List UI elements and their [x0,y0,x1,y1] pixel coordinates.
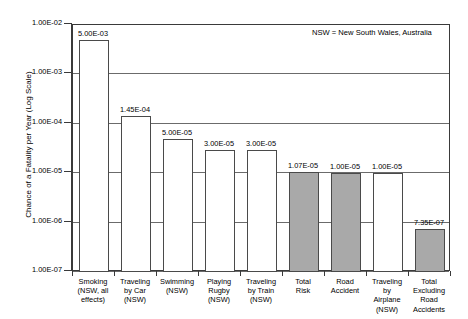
x-axis-category-label: Playing Rugby (NSW) [198,277,240,305]
y-axis-tick [64,171,72,172]
bar-value-label: 7.35E-07 [399,218,459,227]
x-axis-category-label: Total Risk [282,277,324,295]
gridline [73,73,449,74]
x-axis-category-label: Total Excluding Road Accidents [408,277,450,314]
y-axis-tick [64,122,72,123]
x-axis-tick [450,271,451,276]
bar-value-label: 5.00E-03 [63,29,123,38]
x-axis-tick [72,271,73,276]
x-axis-category-label: Traveling by Train (NSW) [240,277,282,305]
x-axis-tick [408,271,409,276]
bar-value-label: 1.45E-04 [105,105,165,114]
x-axis-tick [366,271,367,276]
x-axis-tick [114,271,115,276]
y-axis-tick [64,72,72,73]
bar [121,116,151,272]
chart-annotation: NSW = New South Wales, Australia [312,28,432,37]
y-axis-tick [64,23,72,24]
x-axis-category-label: Road Accident [324,277,366,295]
y-axis-tick-label: 1.00E-04 [0,118,62,126]
x-axis-category-label: Traveling by Airplane (NSW) [366,277,408,314]
bar [163,139,193,272]
bar [289,172,319,272]
bar [205,150,235,272]
y-axis-tick [64,270,72,271]
bar-value-label: 3.00E-05 [231,139,291,148]
bar-value-label: 1.00E-05 [357,162,417,171]
x-axis-tick [240,271,241,276]
y-axis-tick-label: 1.00E-07 [0,266,62,274]
y-axis-tick-label: 1.00E-02 [0,19,62,27]
x-axis-category-label: Swimming (NSW) [156,277,198,295]
y-axis-tick-label: 1.00E-06 [0,217,62,225]
x-axis-category-label: Smoking (NSW, all effects) [72,277,114,305]
x-axis-tick [198,271,199,276]
fatality-risk-bar-chart: Chance of a Fatality per Year (Log Scale… [0,0,468,319]
y-axis-tick [64,221,72,222]
bar [331,173,361,272]
bar-value-label: 5.00E-05 [147,128,207,137]
x-axis-category-label: Traveling by Car (NSW) [114,277,156,305]
x-axis-tick [282,271,283,276]
x-axis-tick [156,271,157,276]
y-axis-tick-label: 1.00E-03 [0,68,62,76]
bar [79,40,109,272]
y-axis-tick-label: 1.00E-05 [0,167,62,175]
x-axis-tick [324,271,325,276]
bar [415,229,445,272]
